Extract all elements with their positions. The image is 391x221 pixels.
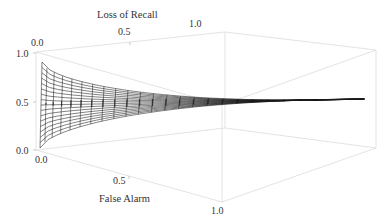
tick-marks — [33, 42, 130, 179]
x-tick-label-1: 1.0 — [211, 206, 224, 216]
z-tick-label-1: 1.0 — [16, 49, 29, 59]
y-tick-label-0: 0.0 — [31, 38, 44, 48]
surface-mesh — [40, 62, 365, 148]
z-tick-label-0: 0.0 — [16, 146, 29, 156]
x-tick-label-0: 0.0 — [35, 155, 48, 165]
loss-of-recall-axis-title: Loss of Recall — [97, 10, 158, 21]
surface-plot-3d — [0, 0, 391, 221]
x-tick-label-05: 0.5 — [113, 176, 126, 186]
y-tick-label-05: 0.5 — [118, 27, 131, 37]
z-tick-label-05: 0.5 — [16, 98, 29, 108]
false-alarm-axis-title: False Alarm — [99, 194, 150, 205]
y-tick-label-1: 1.0 — [189, 19, 202, 29]
